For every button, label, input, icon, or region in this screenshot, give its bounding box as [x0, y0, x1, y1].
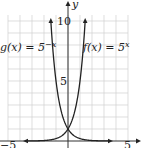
exponential-chart: y105−55g(x) = 5−xf(x) = 5x: [0, 0, 141, 148]
label-g-exponent: −x: [45, 40, 57, 49]
x-tick-5: 5: [124, 139, 131, 148]
y-tick-10: 10: [57, 15, 71, 28]
curve-tail-arrow-icon: [108, 139, 113, 143]
curve-top-arrow-icon: [49, 18, 54, 23]
label-f: f(x) = 5x: [82, 40, 130, 54]
label-f-exponent: x: [125, 40, 130, 49]
y-tick-5: 5: [60, 75, 67, 88]
y-axis-arrow-icon: [66, 1, 71, 6]
label-g: g(x) = 5−x: [0, 40, 57, 54]
curve-top-arrow-icon: [83, 18, 88, 23]
x-axis-arrow-icon: [136, 139, 141, 144]
curve-tail-arrow-icon: [23, 139, 28, 143]
x-tick-neg5: −5: [0, 139, 16, 148]
y-axis-label: y: [71, 0, 79, 11]
